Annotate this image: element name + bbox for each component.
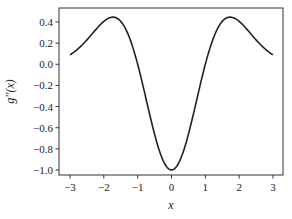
y-tick-label: −0.6 [33, 122, 53, 134]
y-axis-label: g''(x) [3, 79, 17, 103]
y-tick-label: 0.2 [39, 37, 53, 49]
x-tick-label: −2 [98, 181, 110, 193]
data-line-g-second-derivative [70, 17, 273, 170]
line-chart: 0.40.20.0−0.2−0.4−0.6−0.8−1.0 −3−2−10123… [0, 0, 292, 219]
x-axis-ticks: −3−2−10123 [64, 175, 276, 193]
y-tick-label: 0.4 [39, 16, 53, 28]
x-axis-label: x [167, 198, 174, 212]
y-axis-ticks: 0.40.20.0−0.2−0.4−0.6−0.8−1.0 [33, 16, 59, 176]
x-tick-label: −3 [64, 181, 76, 193]
x-tick-label: 1 [203, 181, 209, 193]
x-tick-label: −1 [132, 181, 144, 193]
y-tick-label: −0.8 [33, 143, 53, 155]
y-tick-label: −0.2 [33, 79, 53, 91]
x-tick-label: 3 [270, 181, 276, 193]
y-tick-label: 0.0 [39, 58, 53, 70]
x-tick-label: 2 [236, 181, 242, 193]
y-tick-label: −1.0 [33, 164, 53, 176]
x-tick-label: 0 [169, 181, 175, 193]
y-tick-label: −0.4 [33, 101, 53, 113]
